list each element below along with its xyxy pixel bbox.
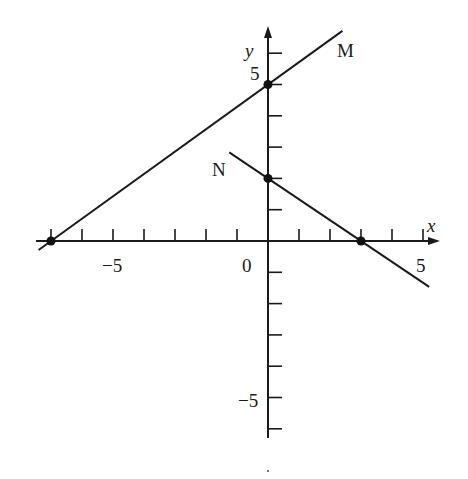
points bbox=[47, 80, 366, 246]
point-n bbox=[357, 237, 366, 246]
y-tick-label-pos5: 5 bbox=[250, 63, 260, 84]
y-axis-arrow-icon bbox=[264, 26, 272, 38]
line-m-label: M bbox=[337, 40, 354, 61]
y-tick-label-neg5: −5 bbox=[238, 390, 258, 411]
axes bbox=[36, 26, 440, 438]
origin-label: 0 bbox=[242, 255, 252, 276]
line-n bbox=[229, 152, 429, 287]
stray-mark bbox=[267, 470, 269, 472]
x-axis-label: x bbox=[426, 215, 436, 236]
line-m bbox=[39, 31, 343, 250]
x-tick-label-pos5: 5 bbox=[416, 255, 426, 276]
y-axis-label: y bbox=[243, 40, 254, 61]
coordinate-plane: x y M N 0 −5 5 5 −5 bbox=[0, 0, 468, 479]
point-n bbox=[264, 174, 273, 183]
x-tick-label-neg5: −5 bbox=[102, 255, 122, 276]
line-n-label: N bbox=[212, 159, 226, 180]
point-m bbox=[47, 237, 56, 246]
point-m bbox=[264, 80, 273, 89]
lines bbox=[39, 31, 430, 287]
x-axis-arrow-icon bbox=[428, 237, 440, 245]
